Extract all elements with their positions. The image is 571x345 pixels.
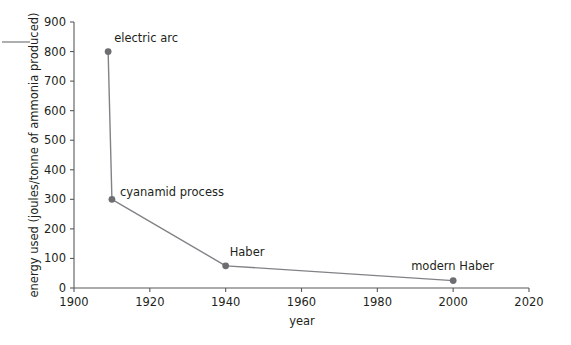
y-tick-label: 500 bbox=[44, 133, 66, 147]
y-tick-label: 400 bbox=[44, 163, 66, 177]
y-tick-label: 600 bbox=[44, 104, 66, 118]
y-tick-label: 800 bbox=[44, 45, 66, 59]
data-point-label: cyanamid process bbox=[120, 185, 224, 199]
energy-vs-year-line-chart: 0100200300400500600700800900 19001920194… bbox=[0, 0, 571, 345]
data-point-marker bbox=[109, 196, 116, 203]
x-tick-label: 1920 bbox=[135, 295, 164, 309]
y-tick-label: 900 bbox=[44, 15, 66, 29]
data-point-marker bbox=[450, 277, 457, 284]
data-point-label: electric arc bbox=[114, 31, 178, 45]
x-tick-label: 1980 bbox=[363, 295, 392, 309]
data-point-marker bbox=[222, 262, 229, 269]
y-axis-title: energy used (joules/tonne of ammonia pro… bbox=[27, 12, 41, 297]
y-tick-label: 100 bbox=[44, 251, 66, 265]
x-axis-title: year bbox=[289, 314, 315, 328]
x-tick-label: 2020 bbox=[514, 295, 543, 309]
data-point-label: Haber bbox=[230, 245, 265, 259]
y-tick-label: 0 bbox=[59, 281, 66, 295]
y-tick-label: 200 bbox=[44, 222, 66, 236]
chart-background bbox=[0, 0, 571, 345]
x-tick-label: 1940 bbox=[211, 295, 240, 309]
data-point-marker bbox=[105, 48, 112, 55]
y-tick-label: 300 bbox=[44, 192, 66, 206]
data-point-label: modern Haber bbox=[411, 259, 494, 273]
x-tick-label: 1960 bbox=[287, 295, 316, 309]
x-tick-label: 2000 bbox=[439, 295, 468, 309]
y-tick-label: 700 bbox=[44, 74, 66, 88]
x-tick-label: 1900 bbox=[59, 295, 88, 309]
chart-figure: 0100200300400500600700800900 19001920194… bbox=[0, 0, 571, 345]
